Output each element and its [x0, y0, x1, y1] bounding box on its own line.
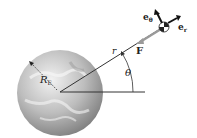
orbital-force-diagram: eθ er F r θ RE — [0, 0, 197, 138]
unit-vector-e-theta-arrow — [154, 9, 162, 23]
force-label: F — [136, 45, 143, 56]
angle-label: θ — [125, 67, 131, 78]
particle — [159, 22, 169, 32]
unit-theta-label: eθ — [143, 12, 153, 23]
force-arrow — [136, 29, 161, 44]
unit-r-label: er — [178, 22, 188, 33]
distance-label: r — [112, 46, 117, 56]
